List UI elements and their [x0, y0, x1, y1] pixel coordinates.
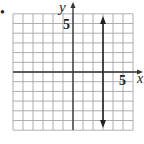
coordinate-grid	[0, 0, 144, 144]
x-axis-label: x	[137, 72, 143, 86]
y-tick-label-5: 5	[63, 18, 70, 32]
y-axis-label: y	[59, 0, 66, 15]
line-bottom-arrow-icon	[100, 120, 106, 128]
line-top-arrow-icon	[100, 16, 106, 24]
y-axis-arrow-icon	[71, 2, 76, 8]
x-tick-label-5: 5	[119, 74, 126, 88]
